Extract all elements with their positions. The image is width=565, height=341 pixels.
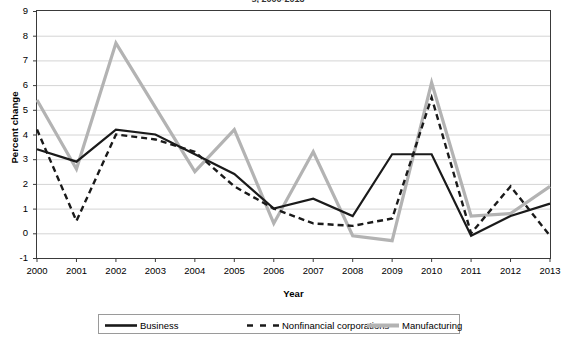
legend-swatch-icon [247,320,279,330]
chart-legend: BusinessNonfinancial corporationsManufac… [98,314,460,334]
legend-label: Business [140,320,179,331]
legend-swatch-icon [105,320,137,330]
legend-swatch-icon [367,320,399,330]
series-line [37,130,550,236]
legend-item[interactable]: Business [105,318,179,332]
series-line [37,43,550,241]
legend-item[interactable]: Manufacturing [367,318,462,332]
data-series-layer [37,43,550,241]
legend-label: Manufacturing [402,320,462,331]
